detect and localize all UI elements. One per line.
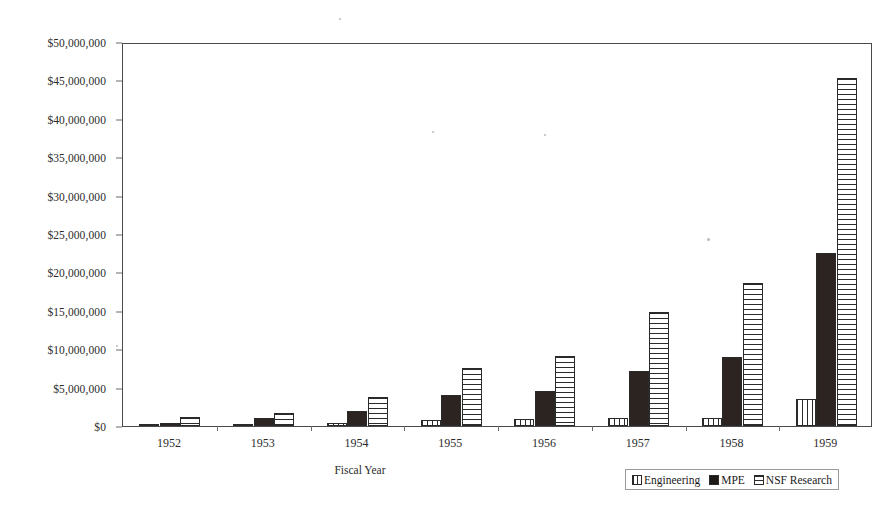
legend-label: NSF Research [766, 474, 832, 486]
bar-group-1957 [592, 44, 686, 426]
y-tick-label: $20,000,000 [47, 267, 106, 279]
legend-swatch-horizontal-stripes-icon [754, 475, 764, 485]
bar-group-1959 [779, 44, 873, 426]
y-tick-label: $0 [94, 421, 106, 433]
legend-swatch-solid-black-icon [709, 475, 719, 485]
bar-engineering-1954 [327, 423, 347, 426]
bar-group-1952 [123, 44, 217, 426]
bar-mpe-1958 [722, 357, 742, 426]
legend-label: MPE [721, 474, 745, 486]
legend-swatch-vertical-stripes-icon [632, 475, 642, 485]
bar-nsf-research-1956 [555, 356, 575, 426]
bar-nsf-research-1953 [274, 413, 294, 426]
x-tick-mark [404, 426, 405, 431]
x-tick-mark [217, 426, 218, 431]
x-tick-label-1954: 1954 [344, 436, 368, 451]
bar-chart: $0$5,000,000$10,000,000$15,000,000$20,00… [0, 0, 896, 516]
y-tick-label: $10,000,000 [47, 344, 106, 356]
legend-item-nsf-research[interactable]: NSF Research [754, 474, 832, 486]
y-tick-label: $25,000,000 [47, 229, 106, 241]
bar-group-1953 [217, 44, 311, 426]
bar-nsf-research-1957 [649, 312, 669, 426]
y-tick-label: $30,000,000 [47, 191, 106, 203]
scan-speck [116, 345, 118, 347]
x-tick-label-1959: 1959 [813, 436, 837, 451]
legend-item-mpe[interactable]: MPE [709, 474, 745, 486]
x-tick-mark [592, 426, 593, 431]
x-tick-label-1957: 1957 [626, 436, 650, 451]
bars-container [123, 44, 871, 426]
y-axis: $0$5,000,000$10,000,000$15,000,000$20,00… [0, 43, 114, 427]
bar-group-1958 [686, 44, 780, 426]
x-tick-mark [686, 426, 687, 431]
bar-group-1954 [311, 44, 405, 426]
y-tick-label: $5,000,000 [53, 383, 106, 395]
bar-mpe-1957 [629, 371, 649, 426]
bar-mpe-1955 [441, 395, 461, 426]
bar-engineering-1955 [421, 420, 441, 426]
x-tick-mark [311, 426, 312, 431]
y-tick-label: $45,000,000 [47, 75, 106, 87]
y-tick-label: $50,000,000 [47, 37, 106, 49]
bar-engineering-1956 [514, 419, 534, 426]
bar-engineering-1952 [139, 424, 159, 426]
plot-area [122, 43, 872, 427]
x-tick-label-1956: 1956 [532, 436, 556, 451]
bar-engineering-1957 [608, 418, 628, 426]
bar-mpe-1959 [816, 253, 836, 426]
scan-speck [339, 18, 341, 20]
x-tick-mark [779, 426, 780, 431]
bar-mpe-1954 [347, 411, 367, 426]
bar-engineering-1959 [796, 399, 816, 426]
bar-nsf-research-1958 [743, 283, 763, 426]
bar-group-1955 [404, 44, 498, 426]
bar-mpe-1953 [254, 418, 274, 426]
x-tick-mark [498, 426, 499, 431]
x-tick-label-1955: 1955 [438, 436, 462, 451]
legend: EngineeringMPENSF Research [625, 469, 839, 490]
bar-nsf-research-1954 [368, 397, 388, 426]
x-tick-label-1958: 1958 [719, 436, 743, 451]
x-axis: 19521953195419551956195719581959 [122, 436, 872, 456]
bar-engineering-1953 [233, 424, 253, 426]
x-tick-label-1952: 1952 [157, 436, 181, 451]
bar-mpe-1952 [160, 423, 180, 426]
bar-group-1956 [498, 44, 592, 426]
bar-mpe-1956 [535, 391, 555, 426]
bar-engineering-1958 [702, 418, 722, 426]
y-tick-label: $35,000,000 [47, 152, 106, 164]
legend-label: Engineering [644, 474, 700, 486]
y-tick-label: $40,000,000 [47, 114, 106, 126]
bar-nsf-research-1959 [837, 78, 857, 426]
y-tick-label: $15,000,000 [47, 306, 106, 318]
bar-nsf-research-1955 [462, 368, 482, 426]
legend-item-engineering[interactable]: Engineering [632, 474, 700, 486]
x-tick-label-1953: 1953 [251, 436, 275, 451]
x-axis-title: Fiscal Year [0, 464, 720, 476]
bar-nsf-research-1952 [180, 417, 200, 426]
